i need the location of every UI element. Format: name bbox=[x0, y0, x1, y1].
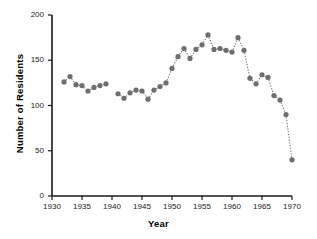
series-segment bbox=[244, 50, 250, 78]
x-tick-label-1950: 1950 bbox=[157, 202, 187, 211]
axis-lines bbox=[52, 15, 292, 196]
data-point bbox=[175, 54, 180, 59]
data-point bbox=[73, 82, 78, 87]
data-point bbox=[61, 79, 66, 84]
data-point bbox=[241, 48, 246, 53]
data-point bbox=[163, 80, 168, 85]
data-point bbox=[145, 97, 150, 102]
data-point bbox=[97, 83, 102, 88]
data-point bbox=[265, 75, 270, 80]
data-point bbox=[259, 72, 264, 77]
data-point bbox=[103, 81, 108, 86]
y-tick-label-0: 0 bbox=[20, 191, 44, 200]
data-point bbox=[181, 46, 186, 51]
data-point bbox=[199, 42, 204, 47]
data-point bbox=[127, 90, 132, 95]
x-tick-label-1935: 1935 bbox=[67, 202, 97, 211]
data-point bbox=[223, 48, 228, 53]
x-tick-label-1945: 1945 bbox=[127, 202, 157, 211]
data-point bbox=[211, 47, 216, 52]
data-point bbox=[67, 74, 72, 79]
x-tick-label-1940: 1940 bbox=[97, 202, 127, 211]
x-tick-label-1930: 1930 bbox=[37, 202, 67, 211]
y-axis-title: Number of Residents bbox=[14, 39, 25, 169]
data-point bbox=[139, 88, 144, 93]
series-segment bbox=[286, 115, 292, 160]
x-tick-label-1955: 1955 bbox=[187, 202, 217, 211]
data-point bbox=[157, 84, 162, 89]
data-point bbox=[151, 88, 156, 93]
data-point bbox=[277, 97, 282, 102]
data-point bbox=[283, 112, 288, 117]
series-data-points bbox=[61, 32, 294, 162]
data-point bbox=[289, 157, 294, 162]
data-point bbox=[229, 50, 234, 55]
data-point bbox=[271, 93, 276, 98]
data-point bbox=[187, 56, 192, 61]
x-tick-label-1970: 1970 bbox=[277, 202, 307, 211]
data-point bbox=[133, 88, 138, 93]
x-axis-title: Year bbox=[0, 218, 317, 229]
series-segment bbox=[268, 77, 274, 95]
data-point bbox=[91, 85, 96, 90]
data-point bbox=[235, 35, 240, 40]
y-tick-label-200: 200 bbox=[20, 10, 44, 19]
data-point bbox=[169, 66, 174, 71]
data-point bbox=[217, 46, 222, 51]
data-point bbox=[253, 81, 258, 86]
data-point bbox=[115, 91, 120, 96]
data-point bbox=[121, 96, 126, 101]
data-point bbox=[205, 32, 210, 37]
x-tick-label-1965: 1965 bbox=[247, 202, 277, 211]
data-point bbox=[193, 47, 198, 52]
series-connector-line bbox=[64, 35, 292, 160]
data-point bbox=[85, 88, 90, 93]
x-tick-label-1960: 1960 bbox=[217, 202, 247, 211]
chart-figure: 193019351940194519501955196019651970 050… bbox=[0, 0, 317, 239]
data-point bbox=[79, 83, 84, 88]
data-point bbox=[247, 76, 252, 81]
